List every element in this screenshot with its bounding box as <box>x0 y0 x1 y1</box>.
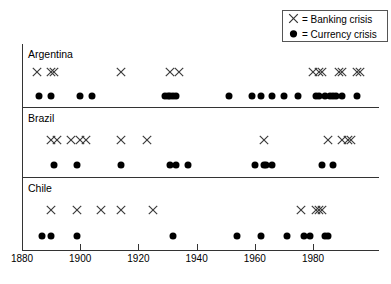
banking-crisis-marker <box>345 135 356 146</box>
banking-crisis-marker <box>354 67 365 78</box>
currency-crisis-marker <box>234 233 241 240</box>
x-tick-label: 1940 <box>185 253 207 264</box>
banking-crisis-marker <box>258 135 269 146</box>
y-axis-line <box>22 44 23 251</box>
currency-crisis-marker <box>117 162 124 169</box>
banking-crisis-marker <box>296 205 307 216</box>
currency-crisis-marker <box>353 93 360 100</box>
banking-crisis-marker <box>142 135 153 146</box>
x-tick <box>80 244 81 251</box>
banking-crisis-marker <box>46 205 57 216</box>
banking-crisis-marker <box>322 135 333 146</box>
currency-crisis-marker <box>269 93 276 100</box>
currency-crisis-marker <box>295 93 302 100</box>
legend: = Banking crisis = Currency crisis <box>282 10 388 42</box>
banking-crisis-marker <box>174 67 185 78</box>
currency-crisis-marker <box>88 93 95 100</box>
currency-crisis-marker <box>318 162 325 169</box>
x-tick <box>197 244 198 251</box>
currency-crisis-marker <box>283 233 290 240</box>
currency-crisis-marker <box>257 93 264 100</box>
x-marker-icon <box>287 13 300 26</box>
x-tick-label: 1960 <box>244 253 266 264</box>
currency-crisis-marker <box>330 162 337 169</box>
banking-crisis-marker <box>95 205 106 216</box>
panel-label-chile: Chile <box>28 182 52 194</box>
x-tick <box>313 244 314 251</box>
currency-crisis-marker <box>48 93 55 100</box>
banking-crisis-marker <box>115 205 126 216</box>
currency-crisis-marker <box>184 162 191 169</box>
banking-crisis-marker <box>147 205 158 216</box>
currency-crisis-marker <box>39 233 46 240</box>
legend-label-banking: = Banking crisis <box>302 14 372 25</box>
legend-label-currency: = Currency crisis <box>302 29 377 40</box>
banking-crisis-marker <box>31 67 42 78</box>
currency-crisis-marker <box>74 162 81 169</box>
x-tick <box>138 244 139 251</box>
banking-crisis-marker <box>81 135 92 146</box>
banking-crisis-marker <box>316 205 327 216</box>
panel-separator-2 <box>22 177 379 178</box>
currency-crisis-marker <box>257 233 264 240</box>
currency-crisis-marker <box>173 162 180 169</box>
x-tick-label: 1980 <box>302 253 324 264</box>
banking-crisis-marker <box>49 67 60 78</box>
banking-crisis-marker <box>115 135 126 146</box>
legend-item-banking: = Banking crisis <box>287 12 383 27</box>
legend-item-currency: = Currency crisis <box>287 27 383 42</box>
currency-crisis-marker <box>51 162 58 169</box>
panel-separator-1 <box>22 107 379 108</box>
panel-label-argentina: Argentina <box>28 48 73 60</box>
crisis-timeline-figure: = Banking crisis = Currency crisis 18801… <box>0 0 391 284</box>
currency-crisis-marker <box>173 93 180 100</box>
currency-crisis-marker <box>251 162 258 169</box>
currency-crisis-marker <box>48 233 55 240</box>
currency-crisis-marker <box>74 233 81 240</box>
banking-crisis-marker <box>72 205 83 216</box>
currency-crisis-marker <box>307 233 314 240</box>
x-tick-label: 1880 <box>11 253 33 264</box>
currency-crisis-marker <box>339 93 346 100</box>
banking-crisis-marker <box>51 135 62 146</box>
banking-crisis-marker <box>115 67 126 78</box>
x-tick-label: 1920 <box>127 253 149 264</box>
currency-crisis-marker <box>170 233 177 240</box>
currency-crisis-marker <box>324 233 331 240</box>
banking-crisis-marker <box>337 67 348 78</box>
panel-label-brazil: Brazil <box>28 112 54 124</box>
currency-crisis-marker <box>36 93 43 100</box>
currency-crisis-marker <box>280 93 287 100</box>
banking-crisis-marker <box>316 67 327 78</box>
x-tick <box>22 244 23 251</box>
x-tick <box>255 244 256 251</box>
currency-crisis-marker <box>77 93 84 100</box>
currency-crisis-marker <box>225 93 232 100</box>
x-tick-label: 1900 <box>69 253 91 264</box>
currency-crisis-marker <box>248 93 255 100</box>
x-axis-line <box>22 250 379 251</box>
dot-marker-icon <box>287 28 300 41</box>
currency-crisis-marker <box>269 162 276 169</box>
